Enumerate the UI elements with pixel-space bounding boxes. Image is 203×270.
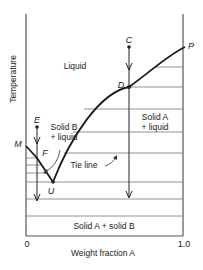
region-solid-a-liquid-1: Solid A bbox=[142, 112, 169, 122]
region-liquid: Liquid bbox=[64, 61, 87, 71]
phase-diagram: Temperature Weight fraction A 0 1.0 Liqu… bbox=[0, 0, 203, 270]
point-d-label: D bbox=[118, 80, 125, 90]
point-e-marker bbox=[35, 125, 39, 129]
liquidus-curve-b bbox=[26, 146, 53, 182]
point-u-marker bbox=[51, 180, 55, 184]
point-p-label: P bbox=[188, 41, 194, 51]
x-tick-0: 0 bbox=[24, 239, 29, 249]
x-axis-label: Weight fraction A bbox=[71, 248, 135, 258]
x-tick-1: 1.0 bbox=[178, 239, 191, 249]
point-d-marker bbox=[127, 85, 131, 89]
region-solid-b-liquid-2: + liquid bbox=[50, 132, 77, 142]
point-u-label: U bbox=[48, 186, 55, 196]
point-m-label: M bbox=[14, 139, 22, 149]
point-e-label: E bbox=[34, 115, 41, 125]
region-solid-b-liquid-1: Solid B bbox=[51, 122, 78, 132]
point-c-marker bbox=[127, 45, 131, 49]
point-f-label: F bbox=[42, 148, 48, 158]
cooling-path-c bbox=[126, 45, 132, 198]
region-solid-a-liquid-2: + liquid bbox=[141, 122, 168, 132]
point-c-label: C bbox=[126, 35, 133, 45]
tie-line-label: Tie line bbox=[70, 160, 97, 170]
y-axis-label: Temperature bbox=[8, 55, 18, 103]
region-solid-a-solid-b: Solid A + solid B bbox=[73, 221, 135, 231]
